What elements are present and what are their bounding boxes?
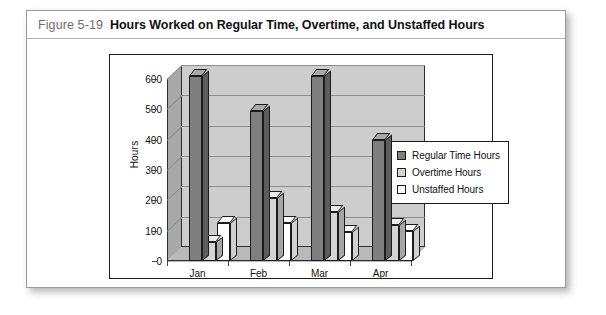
bar-side — [324, 70, 331, 261]
gridline — [181, 126, 425, 127]
x-axis-tick-label: Apr — [373, 268, 389, 279]
bar-side — [202, 70, 209, 261]
legend-swatch-icon — [397, 151, 406, 160]
x-axis-tick-mark — [228, 261, 229, 266]
x-axis-tick-label: Mar — [311, 268, 328, 279]
bar-side — [277, 192, 284, 261]
figure-number: Figure 5-19 — [38, 18, 103, 32]
x-axis-tick-mark — [411, 261, 412, 266]
x-axis-tick-label: Feb — [250, 268, 267, 279]
chart-frame: Hours 0100200300400500600 JanFebMarApr R… — [109, 54, 493, 279]
legend-label: Overtime Hours — [412, 167, 481, 178]
bar — [372, 140, 385, 261]
bar — [250, 111, 263, 261]
x-axis: JanFebMarApr — [167, 261, 425, 283]
bar-face — [189, 76, 202, 261]
gridline — [181, 65, 425, 66]
plot-area — [167, 65, 425, 261]
x-axis-tick-mark — [289, 261, 290, 266]
chart-legend: Regular Time HoursOvertime HoursUnstaffe… — [390, 141, 509, 204]
bar-side — [385, 134, 392, 261]
bar-side — [263, 105, 270, 261]
legend-item: Overtime Hours — [397, 164, 500, 181]
gridline — [181, 95, 425, 96]
figure-caption: Figure 5-19 Hours Worked on Regular Time… — [27, 11, 565, 39]
y-axis-tick-mark — [152, 261, 157, 262]
y-axis-tick-mark — [152, 109, 157, 110]
bar — [311, 76, 324, 261]
legend-label: Unstaffed Hours — [412, 184, 483, 195]
figure-title: Hours Worked on Regular Time, Overtime, … — [110, 18, 484, 32]
y-axis-tick-mark — [152, 231, 157, 232]
x-axis-tick-mark — [350, 261, 351, 266]
legend-swatch-icon — [397, 185, 406, 194]
legend-item: Regular Time Hours — [397, 147, 500, 164]
bar-face — [250, 111, 263, 261]
y-axis-tick-mark — [152, 200, 157, 201]
y-axis-tick-mark — [152, 79, 157, 80]
bar-side — [413, 225, 420, 261]
bar-side — [230, 218, 237, 261]
figure-panel: Figure 5-19 Hours Worked on Regular Time… — [26, 10, 566, 288]
y-axis-tick-mark — [152, 140, 157, 141]
bar-face — [372, 140, 385, 261]
bar-side — [338, 207, 345, 261]
legend-item: Unstaffed Hours — [397, 181, 500, 198]
legend-swatch-icon — [397, 168, 406, 177]
bar-side — [352, 227, 359, 261]
legend-label: Regular Time Hours — [412, 150, 500, 161]
bar — [189, 76, 202, 261]
y-axis-tick-labels: 0100200300400500600 — [124, 55, 162, 278]
bar-side — [291, 218, 298, 261]
x-axis-tick-label: Jan — [189, 268, 205, 279]
y-axis-tick-mark — [152, 170, 157, 171]
bar-side — [399, 220, 406, 261]
x-axis-tick-mark — [167, 261, 168, 266]
bar-face — [311, 76, 324, 261]
